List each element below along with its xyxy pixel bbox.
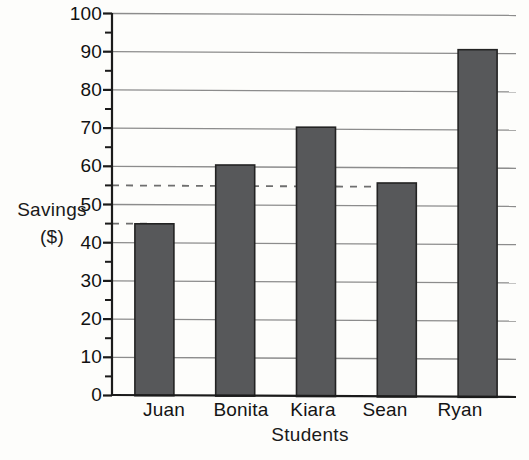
- bar-chart: Savings ($) 100 90 80 70 60 50 40 30 20 …: [0, 0, 529, 460]
- reference-line: [112, 185, 416, 187]
- category-label: Juan: [128, 399, 200, 421]
- plot-area: [0, 0, 529, 460]
- category-label: Sean: [344, 399, 426, 421]
- bar-series: [135, 50, 497, 398]
- bar: [458, 50, 497, 398]
- bar: [135, 224, 174, 396]
- bar: [377, 183, 416, 397]
- gridline: [112, 52, 516, 54]
- bar: [216, 165, 255, 396]
- x-axis-title: Students: [110, 424, 510, 446]
- gridline: [112, 90, 516, 92]
- x-axis-line: [111, 395, 516, 397]
- bar: [297, 127, 336, 396]
- gridline: [112, 14, 516, 16]
- category-label: Ryan: [420, 399, 500, 421]
